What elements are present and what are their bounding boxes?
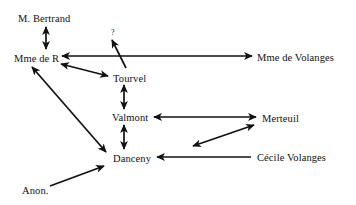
edge-layer <box>0 0 356 205</box>
edge-mme_de_r-to-danceny <box>32 67 106 152</box>
node-label-anon: Anon. <box>22 185 48 196</box>
node-label-tourvel: Tourvel <box>113 73 146 84</box>
node-label-cecile: Cécile Volanges <box>257 152 326 163</box>
edge-mme_de_r-to-tourvel <box>61 64 108 76</box>
node-label-mme_de_r: Mme de R <box>14 53 59 64</box>
node-label-danceny: Danceny <box>113 153 151 164</box>
node-label-qmark: ? <box>111 29 115 37</box>
edge-tourvel-to-qmark <box>112 40 126 68</box>
node-label-volanges: Mme de Volanges <box>257 52 334 63</box>
node-label-bertrand: M. Bertrand <box>18 13 70 24</box>
edge-merteuil-to-danceny <box>193 125 254 146</box>
edge-anon-to-danceny <box>50 166 104 186</box>
relationship-diagram: M. BertrandMme de R?TourvelMme de Volang… <box>0 0 356 205</box>
node-label-valmont: Valmont <box>112 112 148 123</box>
node-label-merteuil: Merteuil <box>262 113 299 124</box>
